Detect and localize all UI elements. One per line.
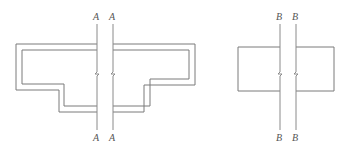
- label-a-top-1: A: [93, 12, 99, 22]
- label-b-bottom-2: B: [292, 133, 298, 143]
- cut-line-b1: [278, 24, 282, 130]
- cut-line-b2: [294, 24, 298, 130]
- label-b-top-2: B: [292, 12, 298, 22]
- label-a-bottom-1: A: [93, 133, 99, 143]
- label-a-bottom-2: A: [109, 133, 115, 143]
- cut-line-a1: [95, 24, 99, 130]
- label-a-top-2: A: [109, 12, 115, 22]
- left-shape-outer-left: [16, 44, 97, 112]
- right-rect-right: [296, 47, 334, 91]
- cut-line-a2: [111, 24, 115, 130]
- left-shape-outer-right: [113, 44, 195, 112]
- left-shape-inner-right: [113, 50, 189, 106]
- label-b-bottom-1: B: [276, 133, 282, 143]
- diagram-canvas: A A A A B B B B: [0, 0, 349, 156]
- right-rect-left: [238, 47, 280, 91]
- label-b-top-1: B: [276, 12, 282, 22]
